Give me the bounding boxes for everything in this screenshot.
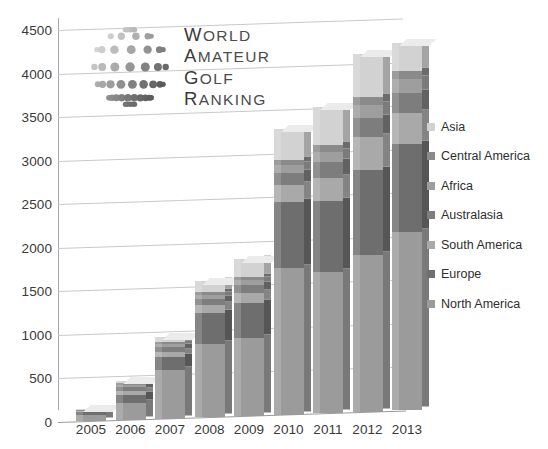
legend-item-africa[interactable]: Africa — [427, 171, 548, 201]
bar-sheen — [313, 152, 320, 162]
y-axis-tick-3000: 3000 — [0, 153, 52, 168]
legend-swatch-icon — [427, 241, 435, 249]
x-axis-tick-2009: 2009 — [234, 422, 264, 437]
x-axis-tick-2006: 2006 — [115, 422, 145, 437]
bar-segment-2010-africa — [274, 165, 304, 173]
bar-side-face — [304, 182, 311, 199]
chart-legend: AsiaCentral AmericaAfricaAustralasiaSout… — [427, 112, 548, 319]
x-axis-tick-2005: 2005 — [76, 422, 106, 437]
bar-side-face — [225, 341, 232, 414]
bar-side-face — [225, 309, 232, 340]
logo-initial: R — [184, 88, 199, 109]
bar-side-face — [383, 102, 390, 115]
bar-segment-2013-north-america — [392, 232, 422, 411]
bar-side-face — [225, 291, 232, 295]
bar-side-face — [304, 162, 311, 170]
wagr-logo: WORLDAMATEURGOLFRANKING — [88, 24, 270, 110]
logo-line-1: WORLD — [184, 24, 270, 45]
bar-sheen — [353, 54, 360, 98]
bar-sheen — [234, 293, 241, 303]
y-axis-tick-500: 500 — [0, 371, 52, 386]
bar-sheen — [274, 165, 281, 173]
x-axis-tick-2007: 2007 — [155, 422, 185, 437]
bar-sheen — [274, 202, 281, 268]
logo-line-4: RANKING — [184, 88, 270, 109]
bar-side-face — [383, 166, 390, 251]
bar-segment-2010-asia — [274, 129, 304, 160]
bar-sheen — [234, 280, 241, 285]
bar-sheen — [234, 303, 241, 338]
bar-sheen — [392, 232, 399, 411]
bar-segment-2007-central-america — [155, 342, 185, 344]
bar-side-face — [304, 265, 311, 411]
bar-sheen — [195, 344, 202, 417]
bar-side-face — [264, 299, 271, 334]
bar-sheen — [234, 277, 241, 280]
bar-segment-2007-europe — [155, 357, 185, 370]
bar-sheen — [313, 272, 320, 413]
legend-swatch-icon — [427, 123, 435, 131]
bar-segment-2013-central-america — [392, 71, 422, 80]
bar-sheen — [116, 385, 123, 387]
bar-sheen — [195, 292, 202, 295]
bar-sheen — [116, 395, 123, 404]
bar-segment-2012-asia — [353, 54, 383, 98]
legend-item-south-america[interactable]: South America — [427, 230, 548, 260]
legend-label: Europe — [441, 267, 481, 281]
legend-item-asia[interactable]: Asia — [427, 112, 548, 142]
bar-side-face — [185, 344, 192, 348]
bar-side-face — [304, 170, 311, 182]
bar-side-face — [146, 387, 153, 391]
bar-segment-2006-south-america — [116, 391, 146, 395]
bar-segment-2012-south-america — [353, 137, 383, 169]
bar-sheen — [353, 105, 360, 118]
bar-segment-2009-north-america — [234, 338, 264, 416]
bar-sheen — [195, 295, 202, 299]
golf-ball-icon — [88, 25, 172, 109]
x-axis-tick-2010: 2010 — [273, 422, 303, 437]
bar-segment-2013-asia — [392, 43, 422, 71]
legend-item-central-america[interactable]: Central America — [427, 142, 548, 172]
bar-sheen — [116, 391, 123, 395]
bar-side-face — [146, 384, 153, 387]
bar-segment-2006-europe — [116, 395, 146, 404]
bar-segment-2006-australasia — [116, 387, 146, 390]
bar-sheen — [392, 71, 399, 80]
bar-segment-2009-central-america — [234, 277, 264, 280]
bar-sheen — [155, 344, 162, 347]
bar-side-face — [383, 252, 390, 409]
legend-label: South America — [441, 238, 522, 252]
legend-item-europe[interactable]: Europe — [427, 260, 548, 290]
logo-line-3: GOLF — [184, 67, 270, 88]
legend-item-north-america[interactable]: North America — [427, 289, 548, 319]
bar-segment-2011-south-america — [313, 178, 343, 201]
y-axis-tick-1500: 1500 — [0, 284, 52, 299]
bar-sheen — [274, 129, 281, 160]
bar-side-face — [343, 197, 350, 268]
bar-side-face — [185, 341, 192, 344]
bar-sheen — [392, 113, 399, 144]
bar-segment-2012-europe — [353, 170, 383, 255]
bar-side-face — [185, 366, 192, 415]
bar-segment-2007-south-america — [155, 352, 185, 357]
bar-sheen — [155, 342, 162, 344]
bar-side-face — [343, 148, 350, 158]
bar-segment-2012-africa — [353, 105, 383, 118]
legend-label: Asia — [441, 120, 465, 134]
legend-swatch-icon — [427, 211, 435, 219]
bar-segment-2013-south-america — [392, 113, 422, 144]
bar-sheen — [195, 305, 202, 313]
bar-sheen — [274, 185, 281, 202]
bar-segment-2012-north-america — [353, 255, 383, 412]
legend-item-australasia[interactable]: Australasia — [427, 201, 548, 231]
bar-segment-2011-asia — [313, 107, 343, 145]
legend-label: North America — [441, 297, 520, 311]
x-axis-tick-2008: 2008 — [194, 422, 224, 437]
bar-side-face — [422, 67, 429, 76]
bar-side-face — [343, 269, 350, 410]
bar-sheen — [392, 93, 399, 113]
legend-label: Africa — [441, 179, 473, 193]
x-axis-tick-2012: 2012 — [352, 422, 382, 437]
bar-sheen — [313, 145, 320, 152]
logo-wordmark: WORLDAMATEURGOLFRANKING — [184, 24, 270, 110]
